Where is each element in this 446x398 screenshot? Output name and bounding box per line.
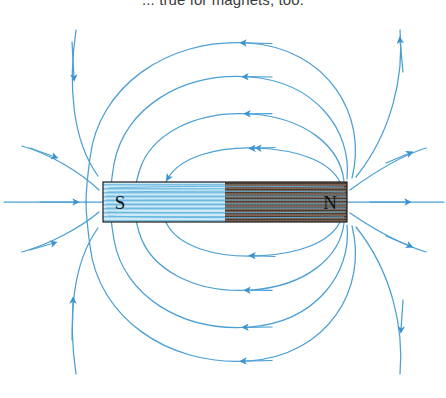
field-line-lower-4-arrow: [243, 361, 272, 362]
magnetic-field-diagram: S N: [0, 0, 446, 398]
bar-magnet[interactable]: [103, 182, 347, 222]
field-line-diag-right-lower: [350, 213, 426, 252]
field-line-diag-left-upper-arrow: [30, 148, 55, 157]
field-line-diag-right-lower-arrow: [386, 236, 410, 246]
field-line-upper-4: [86, 43, 355, 203]
field-line-upper-5-right: [356, 30, 401, 177]
field-line-upper-5-left: [72, 30, 98, 176]
field-line-lower-5-left: [72, 228, 98, 374]
field-line-lower-4: [86, 201, 355, 361]
field-line-diag-left-lower-arrow: [30, 243, 54, 250]
pole-label-south: S: [115, 192, 126, 213]
field-line-lower-5-right-arrow: [401, 300, 403, 330]
field-line-lower-5-right: [356, 227, 401, 374]
field-line-upper-4-arrow: [243, 43, 272, 44]
figure-stage: ... true for magnets, too.: [0, 0, 446, 398]
pole-label-north: N: [323, 192, 337, 213]
field-line-diag-right-upper-arrow: [386, 153, 410, 163]
